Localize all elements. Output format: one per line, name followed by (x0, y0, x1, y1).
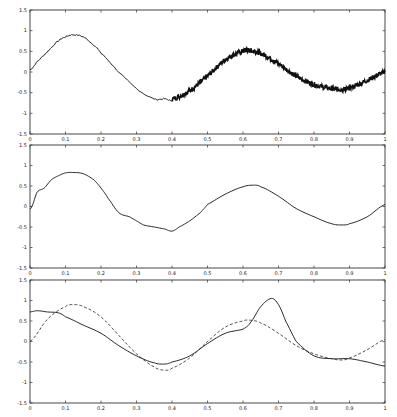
x-tick-label: 0 (28, 405, 31, 411)
y-tick-label: 1.5 (19, 7, 27, 13)
y-tick-label: -0.5 (17, 359, 27, 365)
y-tick-label: 0.5 (19, 318, 27, 324)
x-tick-label: 0.3 (133, 405, 141, 411)
x-tick-label: 0.7 (275, 270, 283, 276)
figure: 00.10.20.30.40.50.60.70.80.91-1.5-1-0.50… (0, 0, 397, 417)
y-tick-label: 1 (24, 297, 27, 303)
x-tick-label: 0.4 (168, 405, 176, 411)
x-tick-label: 0.4 (168, 136, 176, 142)
x-tick-label: 0.3 (133, 136, 141, 142)
axes-frame (30, 10, 385, 134)
x-tick-label: 0.1 (62, 136, 70, 142)
y-tick-label: 1.5 (19, 142, 27, 148)
series-signal-high-noise-segment- (172, 48, 385, 101)
x-tick-label: 0.6 (239, 136, 247, 142)
y-tick-label: 0 (24, 203, 27, 209)
x-tick-label: 0.9 (346, 270, 354, 276)
x-tick-label: 1 (383, 136, 386, 142)
y-tick-label: -1.5 (17, 265, 27, 271)
x-tick-label: 0.8 (310, 405, 318, 411)
x-tick-label: 0.9 (346, 136, 354, 142)
x-tick-label: 0.8 (310, 270, 318, 276)
y-tick-label: 1 (24, 162, 27, 168)
x-tick-label: 0.5 (204, 405, 212, 411)
x-tick-label: 0.4 (168, 270, 176, 276)
plot-panel-3: 00.10.20.30.40.50.60.70.80.91-1.5-1-0.50… (17, 277, 386, 411)
y-tick-label: 0 (24, 338, 27, 344)
y-tick-label: 0 (24, 69, 27, 75)
series-denoised-estimate (30, 172, 385, 231)
x-tick-label: 0.2 (97, 405, 105, 411)
series-signal-low-noise-segment- (30, 34, 172, 101)
y-tick-label: -1 (22, 379, 27, 385)
y-tick-label: 0.5 (19, 183, 27, 189)
x-tick-label: 0.1 (62, 405, 70, 411)
x-tick-label: 1 (383, 405, 386, 411)
x-tick-label: 0.1 (62, 270, 70, 276)
series-true-signal (30, 305, 385, 371)
plot-panel-2: 00.10.20.30.40.50.60.70.80.91-1.5-1-0.50… (17, 142, 386, 276)
x-tick-label: 0.6 (239, 270, 247, 276)
y-tick-label: 1.5 (19, 277, 27, 283)
plot-panel-1: 00.10.20.30.40.50.60.70.80.91-1.5-1-0.50… (17, 7, 386, 142)
x-tick-label: 0.8 (310, 136, 318, 142)
y-tick-label: -1.5 (17, 400, 27, 406)
x-tick-label: 0.2 (97, 136, 105, 142)
x-tick-label: 0 (28, 136, 31, 142)
x-tick-label: 0 (28, 270, 31, 276)
x-tick-label: 0.3 (133, 270, 141, 276)
y-tick-label: 1 (24, 27, 27, 33)
y-tick-label: 0.5 (19, 48, 27, 54)
y-tick-label: -0.5 (17, 224, 27, 230)
series-estimate (30, 298, 385, 366)
x-tick-label: 0.2 (97, 270, 105, 276)
x-tick-label: 0.6 (239, 405, 247, 411)
x-tick-label: 1 (383, 270, 386, 276)
axes-frame (30, 145, 385, 268)
y-tick-label: -0.5 (17, 89, 27, 95)
x-tick-label: 0.7 (275, 405, 283, 411)
y-tick-label: -1 (22, 110, 27, 116)
y-tick-label: -1 (22, 244, 27, 250)
x-tick-label: 0.7 (275, 136, 283, 142)
x-tick-label: 0.9 (346, 405, 354, 411)
y-tick-label: -1.5 (17, 131, 27, 137)
x-tick-label: 0.5 (204, 136, 212, 142)
x-tick-label: 0.5 (204, 270, 212, 276)
